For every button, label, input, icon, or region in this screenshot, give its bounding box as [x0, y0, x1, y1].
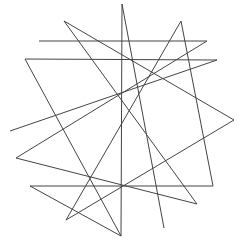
line-segment-9: [16, 158, 197, 204]
line-segment-12: [181, 21, 213, 186]
line-segment-3: [64, 21, 234, 120]
star-line-drawing: [0, 0, 241, 242]
line-segment-7: [10, 60, 217, 131]
line-segment-14: [66, 120, 234, 220]
line-segment-13: [66, 21, 181, 220]
line-segment-0: [121, 4, 122, 236]
